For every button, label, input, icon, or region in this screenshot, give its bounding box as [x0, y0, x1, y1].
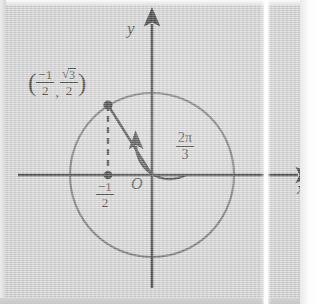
y-axis-label: y [127, 20, 135, 37]
x-intercept-value-label: −1 2 [96, 180, 114, 209]
x-coordinate-denominator: 2 [40, 83, 51, 97]
y-coordinate-fraction: √3 2 [60, 68, 78, 97]
close-paren: ) [78, 70, 86, 95]
terminal-ray [108, 105, 152, 175]
y-coordinate-denominator: 2 [64, 83, 75, 97]
coordinate-comma: , [54, 85, 60, 100]
angle-fraction: 2π 3 [176, 131, 194, 162]
y-coordinate-numerator: √3 [60, 68, 78, 82]
unit-circle-plot [0, 0, 320, 304]
foot-numerator: −1 [96, 180, 114, 194]
angle-measure-label: 2π 3 [176, 131, 194, 162]
foot-fraction: −1 2 [96, 180, 114, 209]
terminal-point-dot [103, 100, 112, 109]
x-coordinate-numerator: −1 [36, 68, 54, 82]
terminal-point-coordinate-label: ( −1 2 , √3 2 ) [28, 68, 86, 97]
open-paren: ( [28, 70, 36, 95]
origin-label: O [131, 176, 143, 192]
radicand: 3 [68, 68, 76, 81]
unit-circle-figure: ( −1 2 , √3 2 ) 2π 3 −1 2 O x [0, 0, 320, 304]
x-coordinate-fraction: −1 2 [36, 68, 54, 97]
x-intercept-dot [104, 171, 113, 180]
radical-sign: √ [62, 67, 69, 80]
angle-denominator: 3 [180, 147, 191, 162]
foot-denominator: 2 [100, 195, 111, 209]
x-axis-label: x [297, 180, 305, 197]
angle-numerator: 2π [176, 131, 194, 146]
